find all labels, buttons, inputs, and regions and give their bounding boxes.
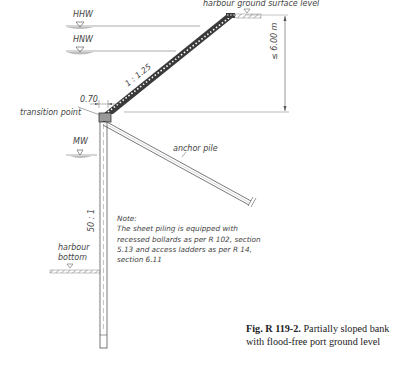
note-line-2: recessed bollards as per R 102, section <box>117 235 261 245</box>
hnw-water-level <box>66 47 176 55</box>
note-line-1: The sheet piling is equipped with <box>117 224 261 234</box>
note-line-3: 5.13 and access ladders as per R 14, <box>117 245 261 255</box>
sloped-revetment <box>103 13 236 114</box>
note-title: Note: <box>117 214 261 224</box>
transition-point-label: transition point <box>20 109 81 117</box>
anchor-pile <box>103 121 256 207</box>
pile-rake-label: 50 : 1 <box>88 209 96 232</box>
caption-line-2: with flood-free port ground level <box>246 335 389 348</box>
figure-caption: Fig. R 119-2. Partially sloped bank with… <box>246 322 389 348</box>
harbour-bottom <box>50 264 100 273</box>
harbour-bottom-label-1: harbour <box>58 244 90 252</box>
mw-label: MW <box>73 138 88 146</box>
mw-water-level <box>66 150 97 158</box>
width-dimension-label: 0.70 <box>80 96 98 104</box>
harbour-bottom-label-2: bottom <box>58 254 87 262</box>
hhw-water-level <box>66 22 200 29</box>
hnw-label: HNW <box>73 36 93 44</box>
note-line-4: section 6.11 <box>117 255 261 265</box>
harbour-ground-surface <box>235 9 261 18</box>
harbour-ground-label: harbour ground surface level <box>203 0 319 8</box>
sheet-pile-wall <box>100 122 107 348</box>
capping-beam <box>99 113 111 122</box>
note-block: Note: The sheet piling is equipped with … <box>117 214 261 265</box>
transition-leader <box>78 107 100 115</box>
anchor-pile-label: anchor pile <box>173 145 218 153</box>
height-dimension-label: ≤ 6.00 m <box>271 23 279 60</box>
hhw-label: HHW <box>73 11 93 19</box>
caption-line-1: Partially sloped bank <box>303 323 389 334</box>
figure-number: Fig. R 119-2. <box>246 323 301 334</box>
